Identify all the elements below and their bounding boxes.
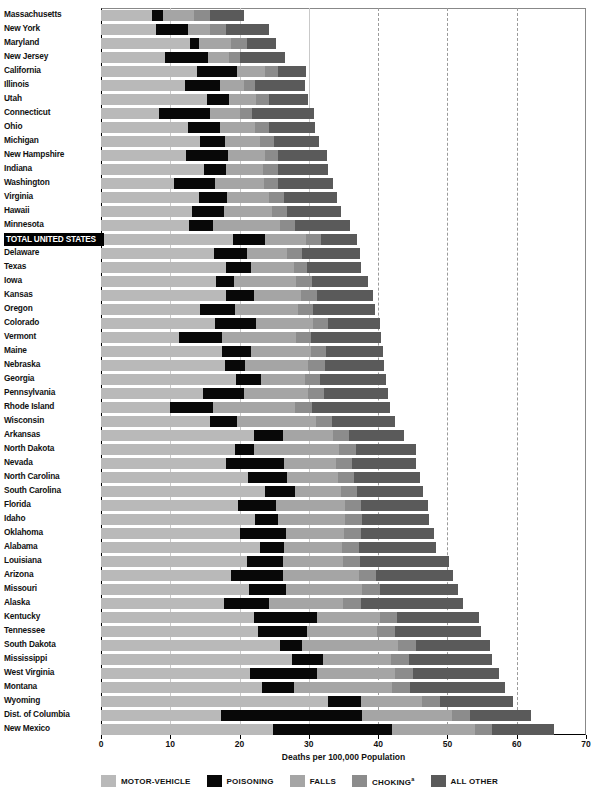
bar-segment-choking: [264, 178, 279, 189]
bar-segment-choking: [308, 388, 324, 399]
bar-row: [101, 234, 586, 245]
category-label: Missouri: [4, 583, 100, 594]
bar-segment-all-other: [361, 500, 428, 511]
bar-row: [101, 486, 586, 497]
bar-segment-all-other: [313, 304, 375, 315]
bar-row: [101, 514, 586, 525]
bar-segment-all-other: [376, 570, 453, 581]
legend-label: ALL OTHER: [451, 777, 498, 786]
legend-item-motor-vehicle[interactable]: MOTOR-VEHICLE: [101, 775, 191, 787]
bar-segment-choking: [377, 626, 394, 637]
bar-segment-motor-vehicle: [101, 38, 190, 49]
legend-item-falls[interactable]: FALLS: [290, 775, 336, 787]
stacked-bar: [101, 150, 327, 161]
bar-segment-poisoning: [226, 262, 251, 273]
category-label: Tennessee: [4, 625, 100, 636]
stacked-bar: [101, 262, 361, 273]
bar-segment-all-other: [278, 150, 327, 161]
bar-segment-falls: [208, 52, 229, 63]
bar-segment-all-other: [284, 192, 337, 203]
bar-segment-poisoning: [222, 346, 252, 357]
stacked-bar: [101, 346, 383, 357]
bar-segment-poisoning: [258, 626, 307, 637]
bar-segment-choking: [475, 724, 492, 735]
category-label: New York: [4, 23, 100, 34]
bar-segment-poisoning: [235, 444, 254, 455]
bar-segment-choking: [391, 654, 409, 665]
bar-segment-all-other: [325, 360, 385, 371]
bar-segment-poisoning: [203, 388, 245, 399]
bar-segment-all-other: [252, 108, 314, 119]
bar-segment-falls: [392, 724, 475, 735]
bar-segment-poisoning: [255, 514, 278, 525]
bar-segment-poisoning: [216, 276, 234, 287]
bar-segment-falls: [283, 430, 333, 441]
bar-segment-all-other: [413, 668, 500, 679]
bar-segment-motor-vehicle: [101, 710, 221, 721]
bar-segment-falls: [276, 500, 345, 511]
bar-segment-motor-vehicle: [101, 178, 174, 189]
bar-segment-choking: [255, 122, 269, 133]
tick-label-60: 60: [512, 739, 521, 749]
bar-segment-falls: [215, 178, 264, 189]
bar-segment-motor-vehicle: [101, 150, 186, 161]
category-label: Mississippi: [4, 653, 100, 664]
bar-segment-motor-vehicle: [101, 416, 210, 427]
bar-segment-choking: [305, 374, 320, 385]
bar-segment-motor-vehicle: [101, 626, 258, 637]
bar-segment-poisoning: [174, 178, 215, 189]
category-label: Oklahoma: [4, 527, 100, 538]
bar-segment-choking: [265, 66, 279, 77]
bar-segment-all-other: [328, 318, 380, 329]
bar-segment-poisoning: [260, 542, 284, 553]
bar-segment-all-other: [278, 178, 333, 189]
bar-segment-all-other: [226, 24, 269, 35]
bar-segment-falls: [295, 486, 341, 497]
bar-segment-motor-vehicle: [101, 290, 226, 301]
bar-row: [101, 402, 586, 413]
bar-segment-falls: [261, 374, 305, 385]
bar-segment-falls: [244, 388, 308, 399]
bar-row: [101, 556, 586, 567]
bar-row: [101, 318, 586, 329]
bar-segment-choking: [260, 136, 274, 147]
bar-segment-all-other: [352, 458, 416, 469]
bar-segment-all-other: [312, 402, 390, 413]
bar-segment-motor-vehicle: [101, 122, 188, 133]
bar-segment-all-other: [470, 710, 530, 721]
category-label: Wyoming: [4, 695, 100, 706]
category-label: Pennsylvania: [4, 387, 100, 398]
category-label: Idaho: [4, 513, 100, 524]
bar-segment-all-other: [287, 206, 341, 217]
bar-segment-motor-vehicle: [101, 346, 222, 357]
bar-row: [101, 304, 586, 315]
bar-segment-all-other: [247, 38, 276, 49]
bar-row: [101, 192, 586, 203]
bar-segment-choking: [422, 696, 440, 707]
category-label: North Carolina: [4, 471, 100, 482]
bar-segment-motor-vehicle: [101, 598, 224, 609]
bar-segment-all-other: [409, 654, 492, 665]
bar-segment-choking: [333, 430, 349, 441]
bar-segment-all-other: [311, 332, 381, 343]
legend-swatch-icon: [101, 775, 116, 787]
bar-segment-motor-vehicle: [101, 654, 292, 665]
bar-segment-choking: [295, 402, 312, 413]
bar-row: [101, 108, 586, 119]
category-label: Minnesota: [4, 219, 100, 230]
bar-row: [101, 10, 586, 21]
stacked-bar: [101, 612, 479, 623]
bar-segment-choking: [269, 192, 284, 203]
tick-label-10: 10: [166, 739, 175, 749]
bar-segment-motor-vehicle: [101, 542, 260, 553]
bar-segment-falls: [278, 514, 345, 525]
legend-item-choking[interactable]: CHOKINGa: [352, 775, 414, 787]
category-label: Indiana: [4, 163, 100, 174]
legend-item-all-other[interactable]: ALL OTHER: [431, 775, 498, 787]
legend-item-poisoning[interactable]: POISONING: [207, 775, 274, 787]
stacked-bar: [101, 164, 328, 175]
bar-segment-falls: [234, 276, 296, 287]
bar-segment-motor-vehicle: [101, 276, 216, 287]
category-label: Michigan: [4, 135, 100, 146]
stacked-bar: [101, 458, 416, 469]
